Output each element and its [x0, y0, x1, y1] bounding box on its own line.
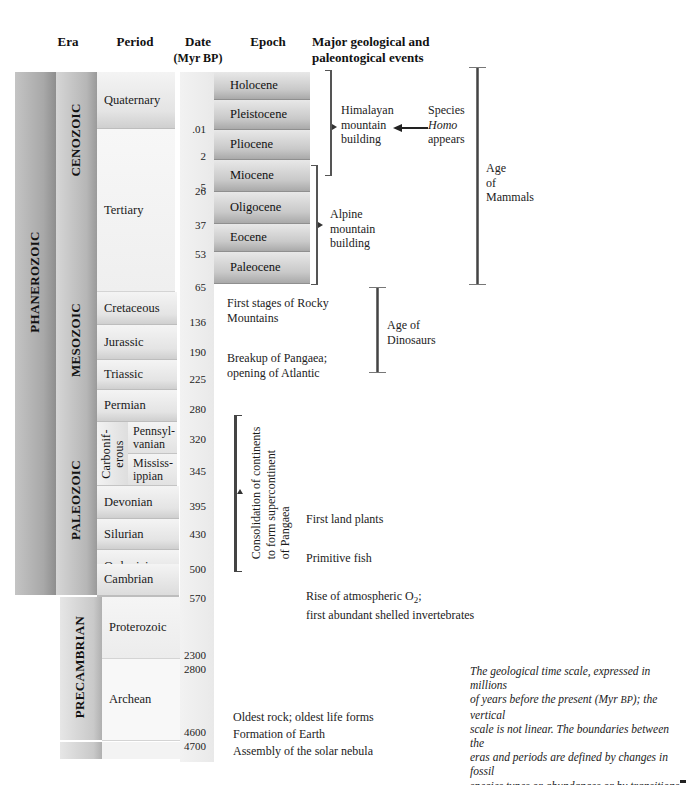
pennsylvanian-line1: Pennsyl- [133, 425, 175, 438]
header-era: Era [48, 34, 88, 50]
dinosaurs-line1: Age of [387, 318, 436, 333]
epoch-holocene: Holocene [214, 72, 310, 100]
header-events-line2: paleontogical events [312, 50, 512, 66]
precambrian-divider [60, 740, 102, 742]
rocky-line1: First stages of Rocky [227, 296, 329, 311]
dinosaurs-line2: Dinosaurs [387, 333, 436, 348]
date-8: 190 [176, 346, 206, 358]
date-17: 2300 [176, 649, 206, 661]
pennsylvanian-line2: vanian [133, 438, 175, 451]
oxygen-semicolon: ; [418, 589, 421, 603]
caption-line2: of years before the present (Myr BP); th… [470, 692, 685, 721]
epoch-pleistocene: Pleistocene [214, 100, 310, 130]
event-solar-nebula: Assembly of the solar nebula [233, 744, 373, 759]
date-15: 500 [176, 563, 206, 575]
carboniferous-label-line2: erous [112, 440, 127, 468]
subperiod-mississippian: Mississ- ippian [128, 454, 177, 486]
event-rocky-mountains: First stages of Rocky Mountains [227, 296, 329, 325]
date-5: 53 [176, 248, 206, 260]
period-triassic: Triassic [97, 360, 177, 390]
eon-label-precambrian: PRECAMBRIAN [72, 616, 88, 718]
period-quaternary: Quaternary [97, 72, 175, 129]
caption-line3: scale is not linear. The boundaries betw… [470, 722, 685, 750]
event-himalayan: Himalayan mountain building [341, 103, 394, 147]
event-age-of-dinosaurs: Age of Dinosaurs [387, 318, 436, 347]
header-period: Period [100, 34, 170, 50]
consolidation-bracket-top [234, 415, 242, 416]
eon-label-phanerozoic: PHANEROZOIC [27, 231, 43, 333]
eon-phanerozoic: PHANEROZOIC [15, 72, 56, 595]
mississippian-line1: Mississ- [133, 457, 173, 470]
era-precambrian: PRECAMBRIAN [60, 597, 102, 759]
date-14: 430 [176, 528, 206, 540]
himalayan-line2: mountain [341, 118, 394, 133]
epoch-paleocene: Paleocene [214, 252, 310, 284]
pangaea-breakup-line2: opening of Atlantic [227, 366, 327, 381]
date-0: .01 [176, 123, 206, 135]
epoch-oligocene: Oligocene [214, 192, 310, 224]
header-date-line2: (Myr BP) [170, 50, 226, 66]
consolidation-bracket-bottom [234, 571, 242, 572]
mammals-line1: Age [486, 161, 534, 176]
date-12: 345 [176, 465, 206, 477]
oxygen-line2: first abundant shelled invertebrates [306, 608, 474, 623]
event-atmospheric-oxygen: Rise of atmospheric O2; first abundant s… [306, 589, 474, 622]
alpine-bracket [308, 165, 318, 285]
himalayan-line1: Himalayan [341, 103, 394, 118]
event-age-of-mammals: Age of Mammals [486, 161, 534, 205]
header-date: Date (Myr BP) [170, 34, 226, 66]
era-label-mesozoic: MESOZOIC [68, 303, 84, 377]
period-carboniferous: Carbonif- erous [97, 422, 128, 486]
period-devonian: Devonian [97, 486, 179, 519]
event-homo: Species Homo appears [428, 103, 465, 147]
period-archean: Archean [102, 659, 182, 741]
page-corner-mark [680, 780, 686, 783]
date-6: 65 [176, 281, 206, 293]
event-alpine: Alpine mountain building [330, 207, 375, 251]
date-16: 570 [176, 592, 206, 604]
alpine-line3: building [330, 236, 375, 251]
date-4: 37 [176, 219, 206, 231]
figure-caption: The geological time scale, expressed in … [470, 664, 685, 785]
rocky-line2: Mountains [227, 311, 329, 326]
event-consolidation: Consolidation of continents to form supe… [246, 415, 296, 555]
dinosaurs-bar [376, 287, 379, 373]
period-silurian: Silurian [97, 519, 179, 550]
era-label-cenozoic: CENOZOIC [68, 103, 84, 176]
period-tertiary: Tertiary [97, 129, 175, 292]
oxygen-line1: Rise of atmospheric O [306, 589, 414, 603]
period-cretaceous: Cretaceous [97, 292, 177, 325]
header-events-line1: Major geological and [312, 34, 512, 50]
date-9: 225 [176, 373, 206, 385]
epoch-miocene: Miocene [214, 160, 310, 192]
era-paleozoic: PALEOZOIC [56, 390, 97, 595]
subperiod-pennsylvanian: Pennsyl- vanian [128, 422, 177, 454]
period-permian: Permian [97, 390, 177, 422]
header-epoch: Epoch [228, 34, 308, 50]
pangaea-breakup-line1: Breakup of Pangaea; [227, 351, 327, 366]
event-formation-of-earth: Formation of Earth [233, 727, 325, 742]
consolidation-pointer-icon [237, 489, 243, 494]
date-18: 2800 [176, 663, 206, 675]
consolidation-line2: to form supercontinent [264, 427, 279, 560]
header-date-line1: Date [170, 34, 226, 50]
date-19: 4600 [176, 726, 206, 738]
period-pre-archean [102, 742, 182, 759]
caption-line4: eras and periods are defined by changes … [470, 750, 685, 778]
homo-line3: appears [428, 132, 465, 147]
header-events: Major geological and paleontogical event… [312, 34, 512, 66]
caption-line2-pre: of years before the present (Myr [470, 693, 621, 705]
caption-line2-bp: BP [621, 694, 633, 705]
epoch-eocene: Eocene [214, 224, 310, 252]
homo-line2: Homo [428, 118, 465, 133]
event-primitive-fish: Primitive fish [306, 551, 372, 566]
period-jurassic: Jurassic [97, 325, 177, 360]
himalayan-line3: building [341, 132, 394, 147]
date-11: 320 [176, 433, 206, 445]
mammals-line3: Mammals [486, 190, 534, 205]
mississippian-line2: ippian [133, 470, 173, 483]
date-3: 26 [176, 185, 206, 197]
date-7: 136 [176, 316, 206, 328]
mammals-line2: of [486, 176, 534, 191]
date-20: 4700 [176, 740, 206, 752]
